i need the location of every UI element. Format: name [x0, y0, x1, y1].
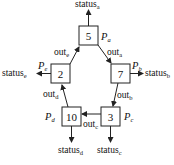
node-e: 2 Pe statuse [2, 60, 70, 83]
edge-d-to-e: outd [43, 85, 68, 107]
status-b-label: statusb [145, 68, 170, 79]
node-a-process: Pa [100, 31, 111, 43]
node-d-process: Pd [44, 111, 55, 123]
status-e-label: statuse [2, 68, 27, 79]
node-a: 5 Pa statusa [75, 0, 111, 45]
node-a-value: 5 [86, 30, 92, 42]
node-b: 7 Pb statusb [111, 60, 170, 83]
status-c-label: statusc [97, 145, 122, 156]
edge-a-to-b: outa [98, 45, 122, 63]
node-e-value: 2 [58, 68, 64, 80]
node-d-value: 10 [66, 111, 78, 123]
edge-e-to-a-label: oute [54, 47, 69, 58]
node-b-process: Pb [131, 60, 142, 72]
node-e-process: Pe [37, 60, 47, 72]
node-c: 3 Pc statusc [97, 107, 133, 156]
edge-e-to-a-arrow [70, 47, 79, 64]
node-d: 10 Pd statusd [44, 107, 84, 156]
edge-b-to-c: outb [113, 83, 132, 106]
node-c-value: 3 [108, 111, 114, 123]
edge-c-to-d-label: outc [83, 119, 98, 130]
edge-c-to-d: outc [82, 114, 101, 130]
status-a-label: statusa [75, 0, 100, 10]
edge-e-to-a: oute [54, 47, 79, 64]
status-d-label: statusd [58, 145, 84, 156]
node-c-process: Pc [123, 111, 133, 123]
edge-d-to-e-arrow [62, 85, 68, 107]
edge-b-to-c-label: outb [117, 90, 132, 101]
ring-process-diagram: 5 Pa statusa 2 Pe statuse 7 Pb statusb 1… [0, 0, 174, 165]
node-b-value: 7 [118, 68, 124, 80]
edge-d-to-e-label: outd [43, 89, 59, 100]
edge-a-to-b-label: outa [107, 47, 122, 58]
